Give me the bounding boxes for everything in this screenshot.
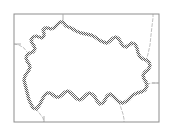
map-figure (0, 0, 173, 135)
map-canvas (0, 0, 173, 135)
